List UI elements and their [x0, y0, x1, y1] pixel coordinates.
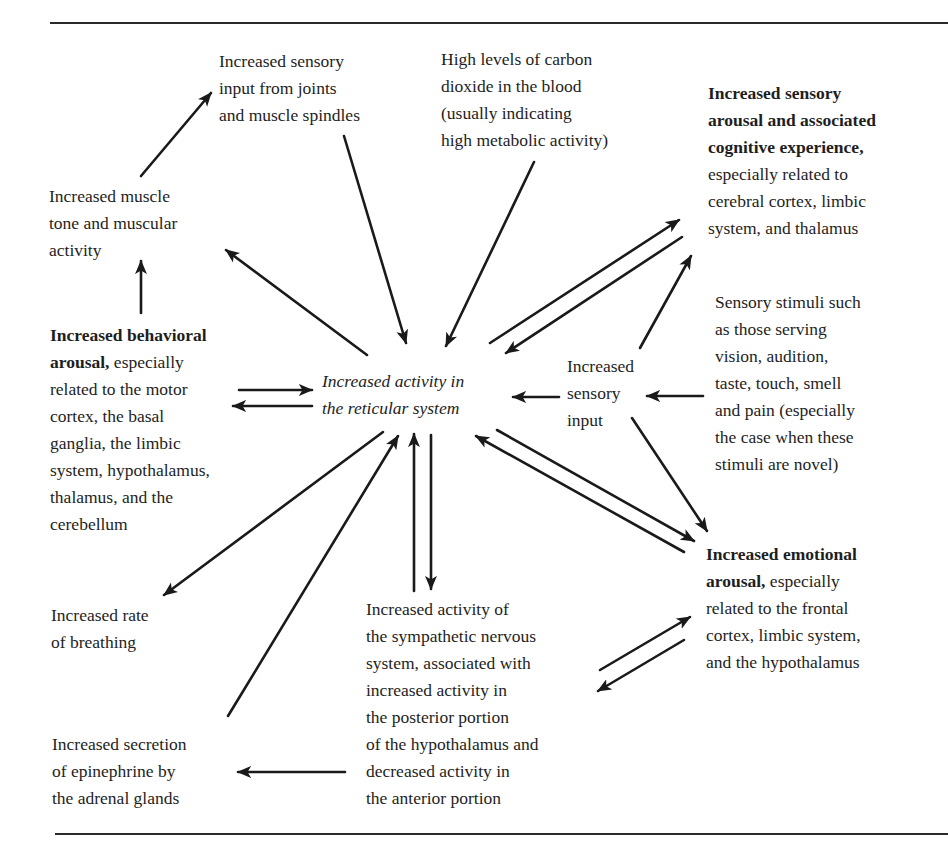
arrow-center-to-muscle	[226, 250, 367, 355]
node-line: and muscle spindles	[219, 102, 360, 129]
node-line: tone and muscular	[49, 210, 177, 237]
node-reticular-system: Increased activity in the reticular syst…	[322, 368, 464, 422]
node-line: system, associated with	[366, 650, 539, 677]
arrow-center-to-cognitive	[490, 220, 679, 343]
node-line: sensory	[567, 380, 634, 407]
node-line: the anterior portion	[366, 785, 539, 812]
node-epinephrine-secretion: Increased secretion of epinephrine by th…	[52, 731, 187, 812]
node-line: system, and thalamus	[708, 215, 876, 242]
node-line-bold: arousal and associated	[708, 107, 876, 134]
node-line: cerebral cortex, limbic	[708, 188, 876, 215]
node-fragment: especially	[765, 571, 839, 591]
node-line: Increased rate	[51, 602, 149, 629]
bottom-rule	[55, 833, 948, 835]
node-line: Increased secretion	[52, 731, 187, 758]
node-line: activity	[49, 237, 177, 264]
node-sympathetic-nervous-system: Increased activity of the sympathetic ne…	[366, 596, 539, 812]
arrow-sympathetic-to-emotional	[600, 617, 690, 670]
node-line: increased activity in	[366, 677, 539, 704]
node-line-bold: Increased emotional	[706, 541, 861, 568]
node-line-mixed: arousal, especially	[50, 349, 210, 376]
arrow-sensory-input-to-cognitive	[640, 256, 691, 348]
arrow-emotional-to-center	[476, 436, 684, 552]
node-line: of epinephrine by	[52, 758, 187, 785]
node-fragment: especially	[109, 352, 183, 372]
node-line: Increased	[567, 353, 634, 380]
node-line: dioxide in the blood	[441, 73, 608, 100]
node-line: input	[567, 407, 634, 434]
node-line: thalamus, and the	[50, 484, 210, 511]
node-line: vision, audition,	[715, 343, 861, 370]
node-line: (usually indicating	[441, 100, 608, 127]
node-sensory-stimuli: Sensory stimuli such as those serving vi…	[715, 289, 861, 478]
node-line: Increased activity in	[322, 368, 464, 395]
node-carbon-dioxide: High levels of carbon dioxide in the blo…	[441, 46, 608, 154]
arrow-cognitive-to-center	[506, 237, 682, 353]
arrow-joints-to-center	[344, 136, 406, 343]
node-line: Sensory stimuli such	[715, 289, 861, 316]
node-line: Increased muscle	[49, 183, 177, 210]
node-muscle-tone: Increased muscle tone and muscular activ…	[49, 183, 177, 264]
node-line: Increased activity of	[366, 596, 539, 623]
node-breathing-rate: Increased rate of breathing	[51, 602, 149, 656]
node-increased-sensory-input: Increased sensory input	[567, 353, 634, 434]
node-line: ganglia, the limbic	[50, 430, 210, 457]
arrow-center-to-emotional	[497, 430, 694, 541]
node-line: stimuli are novel)	[715, 451, 861, 478]
arrow-co2-to-center	[446, 162, 534, 346]
node-line: as those serving	[715, 316, 861, 343]
node-line-bold: Increased sensory	[708, 80, 876, 107]
arrow-sensory-input-to-emotional	[632, 418, 707, 531]
node-line: related to the frontal	[706, 595, 861, 622]
node-line: cerebellum	[50, 511, 210, 538]
node-line: related to the motor	[50, 376, 210, 403]
node-line-bold: cognitive experience,	[708, 134, 876, 161]
node-line: and the hypothalamus	[706, 649, 861, 676]
node-line: the sympathetic nervous	[366, 623, 539, 650]
node-line-bold: Increased behavioral	[50, 322, 210, 349]
node-line: especially related to	[708, 161, 876, 188]
node-line: the reticular system	[322, 395, 464, 422]
node-sensory-arousal-cognitive: Increased sensory arousal and associated…	[708, 80, 876, 242]
node-line: cortex, limbic system,	[706, 622, 861, 649]
node-line: taste, touch, smell	[715, 370, 861, 397]
node-line: high metabolic activity)	[441, 127, 608, 154]
node-line: cortex, the basal	[50, 403, 210, 430]
node-bold-fragment: arousal,	[50, 352, 109, 372]
node-line: Increased sensory	[219, 48, 360, 75]
node-emotional-arousal: Increased emotional arousal, especially …	[706, 541, 861, 676]
arrow-muscle-to-joints	[141, 93, 211, 176]
node-line: and pain (especially	[715, 397, 861, 424]
node-bold-fragment: arousal,	[706, 571, 765, 591]
node-line: the posterior portion	[366, 704, 539, 731]
arrow-emotional-to-sympathetic	[598, 640, 684, 691]
node-line-mixed: arousal, especially	[706, 568, 861, 595]
node-line: High levels of carbon	[441, 46, 608, 73]
node-line: system, hypothalamus,	[50, 457, 210, 484]
node-line: of breathing	[51, 629, 149, 656]
node-line: of the hypothalamus and	[366, 731, 539, 758]
node-line: decreased activity in	[366, 758, 539, 785]
node-joint-sensory-input: Increased sensory input from joints and …	[219, 48, 360, 129]
node-behavioral-arousal: Increased behavioral arousal, especially…	[50, 322, 210, 538]
node-line: input from joints	[219, 75, 360, 102]
node-line: the case when these	[715, 424, 861, 451]
node-line: the adrenal glands	[52, 785, 187, 812]
top-rule	[50, 22, 948, 24]
